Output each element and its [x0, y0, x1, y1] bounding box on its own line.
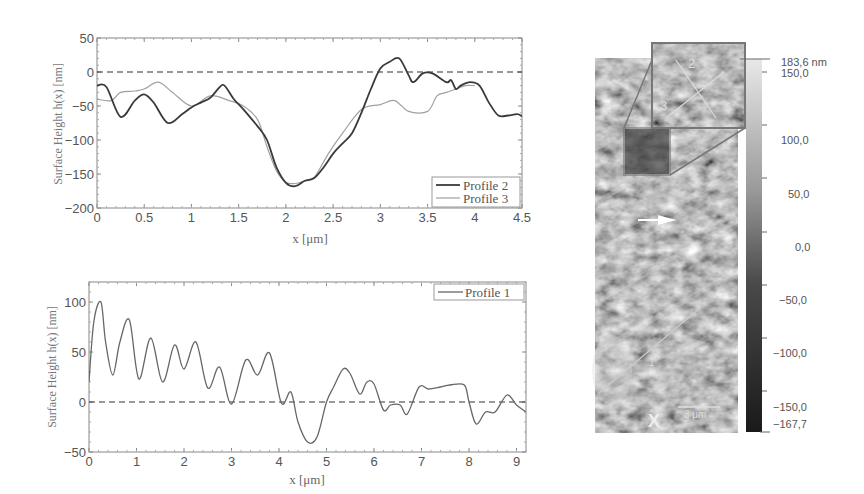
x-tick-label: 0 — [93, 210, 100, 225]
bottom-plot-frame — [89, 282, 526, 452]
bottom-chart: 0123456789100500−50 Surface Height h(x) … — [45, 282, 526, 487]
scale-bar-label: 3 μm — [684, 409, 706, 420]
colorbar-tick-50: 50,0 — [788, 188, 809, 200]
legend-profile-1: Profile 1 — [465, 285, 510, 300]
top-legend: Profile 2 Profile 3 — [432, 177, 520, 207]
y-tick-label: 100 — [64, 295, 86, 310]
colorbar-tick-150: 150,0 — [781, 67, 809, 79]
label-3: 3 — [660, 98, 667, 113]
label-1: 1 — [649, 357, 655, 368]
colorbar: 183,6 nm 150,0 100,0 50,0 0,0 −50,0 −100… — [740, 56, 827, 432]
x-tick-label: 1.5 — [230, 210, 248, 225]
colorbar-min: −167,7 — [773, 418, 807, 430]
y-tick-label: −150 — [65, 167, 94, 182]
profile-1-line — [89, 301, 526, 443]
colorbar-tick-m150: −150,0 — [773, 401, 807, 413]
x-tick-label: 7 — [418, 454, 425, 469]
x-tick-label: 9 — [513, 454, 520, 469]
x-tick-label: 6 — [370, 454, 377, 469]
x-tick-label: 4 — [471, 210, 478, 225]
x-tick-label: 2 — [282, 210, 289, 225]
top-chart: 00.511.522.533.544.5500−50−100−150−200 S… — [51, 31, 531, 246]
x-tick-label: 1 — [188, 210, 195, 225]
colorbar-tick-100: 100,0 — [781, 134, 809, 146]
label-x: X — [648, 411, 660, 431]
profile-2-line — [97, 58, 522, 187]
profile-3-line — [97, 82, 475, 184]
y-tick-label: −50 — [72, 99, 94, 114]
legend-profile-3: Profile 3 — [463, 191, 508, 206]
label-2: 2 — [688, 56, 695, 71]
y-tick-label: 50 — [72, 345, 86, 360]
x-tick-label: 4 — [275, 454, 282, 469]
figure: 00.511.522.533.544.5500−50−100−150−200 S… — [0, 0, 864, 494]
y-tick-label: 0 — [87, 65, 94, 80]
x-tick-label: 8 — [465, 454, 472, 469]
x-tick-label: 3 — [228, 454, 235, 469]
x-tick-label: 4.5 — [513, 210, 531, 225]
x-tick-label: 0 — [85, 454, 92, 469]
x-tick-label: 3.5 — [419, 210, 437, 225]
y-tick-label: 50 — [80, 31, 94, 46]
bottom-legend: Profile 1 — [434, 284, 524, 300]
bottom-x-axis-label: x [μm] — [289, 472, 325, 487]
x-tick-label: 5 — [323, 454, 330, 469]
top-y-axis-label: Surface Height h(x) [nm] — [51, 63, 65, 185]
x-tick-label: 1 — [133, 454, 140, 469]
y-tick-label: −50 — [64, 445, 86, 460]
afm-image: 2 3 1 X 3 μm — [592, 43, 745, 433]
y-tick-label: 0 — [79, 395, 86, 410]
x-tick-label: 3 — [377, 210, 384, 225]
bottom-y-axis-label: Surface Height h(x) [nm] — [45, 306, 59, 428]
colorbar-tick-m50: −50,0 — [779, 294, 807, 306]
x-tick-label: 0.5 — [135, 210, 153, 225]
colorbar-tick-m100: −100,0 — [773, 347, 807, 359]
y-tick-label: −100 — [65, 133, 94, 148]
y-tick-label: −200 — [65, 201, 94, 216]
colorbar-tick-0: 0,0 — [795, 241, 810, 253]
x-tick-label: 2.5 — [324, 210, 342, 225]
bottom-axis-ticks: 0123456789100500−50 — [64, 282, 526, 469]
x-tick-label: 2 — [180, 454, 187, 469]
top-x-axis-label: x [μm] — [292, 231, 328, 246]
zoom-source-box — [624, 128, 670, 175]
